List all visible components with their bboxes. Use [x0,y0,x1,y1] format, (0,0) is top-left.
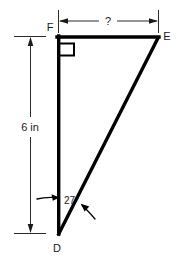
left-dimension-group: 6 in [14,37,46,234]
geometry-figure: ? 6 in [0,0,183,260]
top-dimension-group: ? [59,10,159,33]
left-dimension-arrow-top [28,37,34,46]
angle-label-27: 27° [64,195,79,206]
top-dimension-label: ? [105,15,111,27]
vertex-label-f: F [47,21,54,33]
vertex-label-d: D [53,242,61,254]
left-dimension-label: 6 in [21,121,39,133]
right-angle-square-icon [61,44,74,56]
geometry-canvas: ? 6 in [0,0,183,260]
vertex-label-e: E [163,30,170,42]
right-angle-marker [61,44,74,56]
left-dimension-arrow-bottom [28,224,34,233]
top-dimension-arrow-right [149,18,158,24]
angle-annotation-d: 27° [37,194,95,219]
top-dimension-arrow-left [59,18,68,24]
